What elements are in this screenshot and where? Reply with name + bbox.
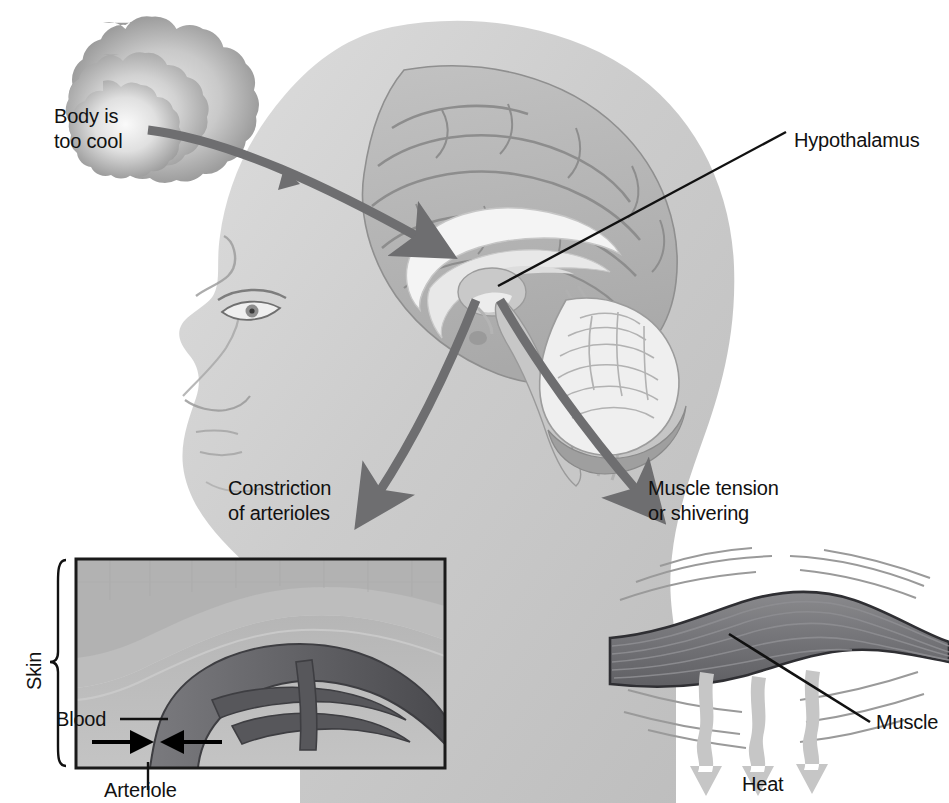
label-muscle-tension-line1: Muscle tension [648,476,779,501]
heat-arrow-1 [690,672,722,796]
label-heat: Heat [742,772,783,797]
skin-bracket [50,560,66,766]
label-skin: Skin [22,652,47,690]
heat-arrow-3 [796,670,828,794]
label-arteriole: Arteriole [104,778,177,803]
cloud-text-line1: Body is [54,104,118,129]
label-constriction-line2: of arterioles [228,501,330,526]
pituitary [469,331,487,345]
label-blood: Blood [56,707,106,732]
label-hypothalamus: Hypothalamus [794,128,919,153]
cloud-text-line2: too cool [54,129,122,154]
stimulus-cloud [66,16,259,183]
label-constriction-line1: Constriction [228,476,331,501]
label-muscle: Muscle [876,710,938,735]
label-muscle-tension-line2: or shivering [648,501,749,526]
figure-artwork [0,0,949,803]
skin-inset-panel [76,559,445,768]
thermoregulation-figure: Body is too cool Hypothalamus Constricti… [0,0,949,803]
